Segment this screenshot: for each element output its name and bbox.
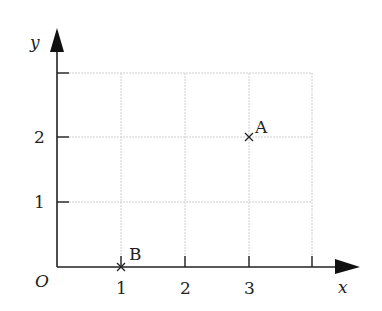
axes <box>57 50 340 267</box>
grid <box>57 73 312 267</box>
origin-label: O <box>35 271 49 291</box>
x-axis-arrow-icon <box>335 259 360 274</box>
y-axis-label: y <box>29 32 40 52</box>
x-tick-label-3: 3 <box>244 278 255 298</box>
point-b-label: B <box>129 244 142 264</box>
y-tick-label-1: 1 <box>34 192 45 212</box>
x-axis-label: x <box>338 277 348 297</box>
point-a-label: A <box>254 117 268 137</box>
y-axis-arrow-icon <box>50 28 64 52</box>
coordinate-diagram: y x O 1 2 1 2 3 A B <box>0 0 382 311</box>
y-tick-label-2: 2 <box>34 127 45 147</box>
x-tick-label-2: 2 <box>180 278 191 298</box>
x-tick-label-1: 1 <box>116 278 127 298</box>
